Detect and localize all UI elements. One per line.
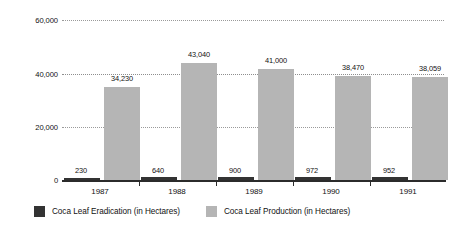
bar-group-1989: 900 41,000	[216, 18, 292, 180]
y-tick-label-20000: 20,000	[2, 123, 58, 132]
bar-group-1990: 972 38,470	[293, 18, 369, 180]
bar-value-eradication-1988: 640	[135, 166, 181, 175]
x-tick-label-1987: 1987	[70, 187, 130, 196]
y-axis: 60,000 40,000 20,000 0	[0, 18, 58, 180]
bar-group-1987: 230 34,230	[62, 18, 138, 180]
legend-label-production: Coca Leaf Production (in Hectares)	[224, 207, 350, 216]
bar-production-1989[interactable]	[258, 69, 294, 180]
y-tick-label-0: 0	[2, 176, 58, 185]
light-square-swatch-icon	[206, 206, 217, 217]
x-tick-mark-2	[216, 180, 217, 186]
bar-value-production-1991: 38,059	[407, 64, 453, 73]
legend-label-eradication: Coca Leaf Eradication (in Hectares)	[52, 207, 180, 216]
legend-item-production[interactable]: Coca Leaf Production (in Hectares)	[206, 206, 350, 217]
y-tick-label-60000: 60,000	[2, 16, 58, 25]
x-tick-mark-1	[139, 180, 140, 186]
bar-value-eradication-1991: 952	[366, 166, 412, 175]
plot-area: 230 34,230 640 43,040 900 41,000 972 38,…	[62, 18, 444, 180]
x-tick-label-1988: 1988	[147, 187, 207, 196]
x-tick-label-1990: 1990	[301, 187, 361, 196]
bar-value-eradication-1987: 230	[58, 166, 104, 175]
y-tick-label-40000: 40,000	[2, 70, 58, 79]
x-axis: 1987 1988 1989 1990 1991	[62, 180, 446, 202]
bar-production-1988[interactable]	[181, 63, 217, 180]
x-tick-label-1989: 1989	[224, 187, 284, 196]
x-tick-mark-4	[370, 180, 371, 186]
bar-chart: 60,000 40,000 20,000 0 230 34,230 640 43…	[0, 0, 455, 236]
bar-production-1991[interactable]	[412, 77, 448, 180]
dark-square-swatch-icon	[34, 206, 45, 217]
x-tick-label-1991: 1991	[378, 187, 438, 196]
bar-group-1991: 952 38,059	[370, 18, 446, 180]
bar-value-eradication-1989: 900	[212, 166, 258, 175]
bar-group-1988: 640 43,040	[139, 18, 215, 180]
bar-value-eradication-1990: 972	[289, 166, 335, 175]
legend-item-eradication[interactable]: Coca Leaf Eradication (in Hectares)	[34, 206, 180, 217]
bar-production-1990[interactable]	[335, 76, 371, 180]
x-tick-mark-3	[293, 180, 294, 186]
chart-legend: Coca Leaf Eradication (in Hectares) Coca…	[34, 206, 350, 217]
